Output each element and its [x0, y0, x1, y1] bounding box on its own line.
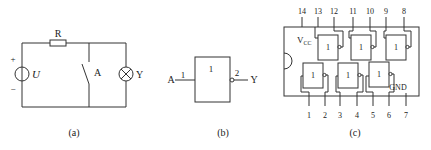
plus-sign: + — [10, 54, 15, 64]
lamp-label: Y — [136, 69, 143, 80]
switch-blade-icon — [82, 64, 89, 84]
gate-input-pin: 1 — [181, 70, 186, 80]
top-pin-leads — [302, 17, 404, 27]
svg-text:1: 1 — [307, 111, 311, 120]
caption-a: (a) — [68, 127, 79, 139]
minus-sign: − — [10, 84, 15, 94]
bottom-pin-leads — [309, 96, 406, 106]
svg-text:8: 8 — [402, 7, 406, 16]
svg-text:1: 1 — [311, 71, 315, 80]
inverter-bubble-icon — [230, 78, 234, 82]
svg-text:2: 2 — [323, 111, 327, 120]
svg-text:12: 12 — [330, 7, 338, 16]
svg-text:11: 11 — [349, 7, 357, 16]
svg-text:1: 1 — [359, 43, 363, 52]
svg-text:1: 1 — [377, 70, 381, 79]
svg-text:9: 9 — [384, 7, 388, 16]
gate-symbol-label: 1 — [209, 64, 214, 74]
svg-text:1: 1 — [326, 43, 330, 52]
svg-text:5: 5 — [371, 111, 375, 120]
svg-text:1: 1 — [394, 43, 398, 52]
caption-c: (c) — [349, 127, 360, 139]
gate-input-label: A — [167, 74, 175, 85]
gate-output-label: Y — [250, 74, 257, 85]
svg-text:3: 3 — [338, 111, 342, 120]
svg-text:6: 6 — [387, 111, 391, 120]
panel-b-not-gate: A 1 1 2 Y (b) — [167, 57, 257, 139]
gnd-label: GND — [389, 83, 407, 92]
panel-c-hex-inverter-chip: 1 1 1 1 1 — [284, 7, 419, 139]
circuit-figure: R U + − A Y (a) A 1 1 2 Y (b) — [0, 0, 431, 150]
panel-a-circuit: R U + − A Y (a) — [10, 28, 143, 139]
caption-b: (b) — [217, 127, 229, 139]
resistor-icon — [50, 40, 66, 46]
voltage-source-label: U — [32, 68, 41, 80]
svg-text:7: 7 — [404, 111, 408, 120]
top-pin-numbers: 14 13 12 11 10 9 8 — [298, 7, 406, 16]
svg-text:4: 4 — [355, 111, 359, 120]
svg-text:14: 14 — [298, 7, 306, 16]
switch-label: A — [94, 67, 102, 78]
resistor-label: R — [55, 28, 62, 39]
bottom-pin-numbers: 1 2 3 4 5 6 7 — [307, 111, 408, 120]
gate-output-pin: 2 — [235, 68, 240, 78]
svg-text:13: 13 — [314, 7, 322, 16]
svg-text:1: 1 — [346, 71, 350, 80]
svg-text:10: 10 — [366, 7, 374, 16]
